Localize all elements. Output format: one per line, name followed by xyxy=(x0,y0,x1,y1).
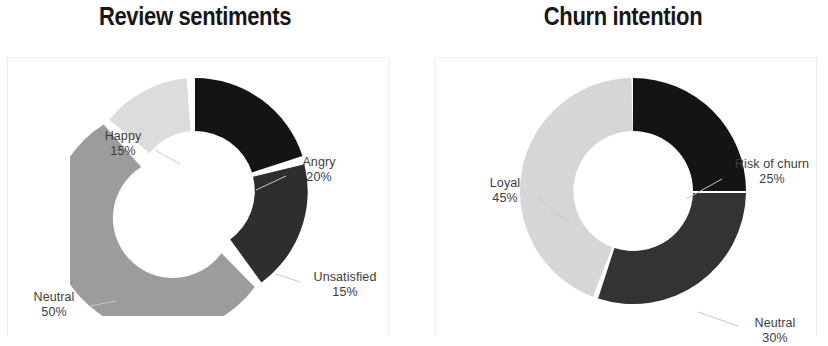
slice-label-neutral-review-name: Neutral xyxy=(22,290,86,305)
donut-slice-neutral-churn xyxy=(598,193,746,304)
slice-label-risk-of-churn-value: 25% xyxy=(726,172,818,187)
donut-chart-churn-intention xyxy=(508,66,758,316)
slice-label-happy-value: 15% xyxy=(94,144,152,159)
slice-label-neutral-review: Neutral 50% xyxy=(22,290,86,319)
slice-label-unsatisfied-value: 15% xyxy=(304,285,386,300)
slice-label-angry: Angry 20% xyxy=(290,155,348,184)
donut-slice-angry xyxy=(195,78,302,172)
slice-label-loyal-name: Loyal xyxy=(476,176,534,191)
slice-label-happy-name: Happy xyxy=(94,129,152,144)
slice-label-loyal: Loyal 45% xyxy=(476,176,534,205)
donut-area-review-sentiments: Happy 15% Angry 20% Unsatisfied 15% Neut… xyxy=(8,58,390,337)
slice-label-neutral-churn-value: 30% xyxy=(742,331,808,346)
donut-area-churn-intention: Risk of churn 25% Loyal 45% Neutral 30% xyxy=(436,58,818,337)
chart-title-churn-intention: Churn intention xyxy=(451,2,794,31)
slice-label-unsatisfied: Unsatisfied 15% xyxy=(304,270,386,299)
slice-label-angry-value: 20% xyxy=(290,170,348,185)
slice-label-loyal-value: 45% xyxy=(476,191,534,206)
chart-panel-review-sentiments: Review sentiments xyxy=(0,0,390,336)
donut-chart-review-sentiments xyxy=(70,66,320,316)
chart-card-review-sentiments: Happy 15% Angry 20% Unsatisfied 15% Neut… xyxy=(7,57,389,336)
slice-label-unsatisfied-name: Unsatisfied xyxy=(304,270,386,285)
slice-label-neutral-review-value: 50% xyxy=(22,305,86,320)
chart-title-review-sentiments: Review sentiments xyxy=(23,2,366,31)
slice-label-neutral-churn-name: Neutral xyxy=(742,316,808,331)
slice-label-happy: Happy 15% xyxy=(94,129,152,158)
slice-label-risk-of-churn: Risk of churn 25% xyxy=(726,157,818,186)
slice-label-neutral-churn: Neutral 30% xyxy=(742,316,808,345)
slice-label-risk-of-churn-name: Risk of churn xyxy=(726,157,818,172)
chart-card-churn-intention: Risk of churn 25% Loyal 45% Neutral 30% xyxy=(435,57,817,336)
slice-label-angry-name: Angry xyxy=(290,155,348,170)
chart-panel-churn-intention: Churn intention Risk of churn xyxy=(428,0,818,336)
